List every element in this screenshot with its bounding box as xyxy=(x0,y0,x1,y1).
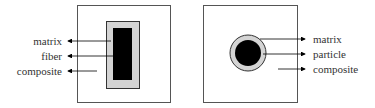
fiber-core xyxy=(113,28,132,80)
particle-core xyxy=(235,40,261,66)
particle-composite-figure xyxy=(204,6,306,103)
label-particle: particle xyxy=(313,48,346,60)
label-matrix-right: matrix xyxy=(313,33,342,45)
label-composite-right: composite xyxy=(313,63,358,75)
label-composite-left: composite xyxy=(2,65,62,77)
fiber-composite-figure xyxy=(68,6,171,103)
label-matrix-left: matrix xyxy=(2,35,62,47)
label-fiber: fiber xyxy=(2,50,62,62)
